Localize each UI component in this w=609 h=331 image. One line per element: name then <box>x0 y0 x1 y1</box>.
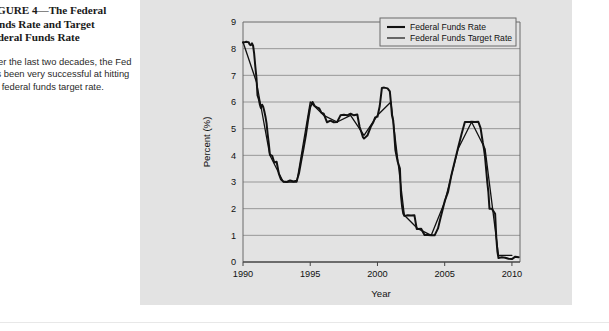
chart-legend: Federal Funds Rate Federal Funds Target … <box>380 18 516 46</box>
plot-background <box>243 22 520 262</box>
x-axis-tick-labels: 19901995200020052010 <box>233 269 522 279</box>
y-tick-label-7: 7 <box>231 71 236 81</box>
y-tick-label-5: 5 <box>231 124 236 134</box>
y-tick-label-1: 1 <box>231 231 236 241</box>
figure-caption-body: Over the last two decades, the Fed has b… <box>0 56 136 94</box>
figure-caption-title: FIGURE 4—The Federal Funds Rate and Targ… <box>0 4 136 45</box>
figure-page: FIGURE 4—The Federal Funds Rate and Targ… <box>0 0 609 331</box>
x-tick-label-2005: 2005 <box>434 269 454 279</box>
y-tick-label-3: 3 <box>231 177 236 187</box>
y-tick-label-6: 6 <box>231 97 236 107</box>
line-chart: 0123456789 19901995200020052010 Percent … <box>140 0 572 305</box>
x-tick-label-1990: 1990 <box>233 269 253 279</box>
y-tick-label-2: 2 <box>231 204 236 214</box>
legend-label-federal-funds-target-rate: Federal Funds Target Rate <box>410 33 512 43</box>
y-axis-title: Percent (%) <box>201 117 212 168</box>
y-tick-label-8: 8 <box>231 44 236 54</box>
x-tick-label-2000: 2000 <box>367 269 387 279</box>
y-axis-tick-labels: 0123456789 <box>231 17 236 267</box>
page-bottom-rule <box>0 322 609 323</box>
y-tick-label-4: 4 <box>231 151 236 161</box>
x-tick-label-1995: 1995 <box>300 269 320 279</box>
legend-label-federal-funds-rate: Federal Funds Rate <box>410 22 486 32</box>
x-axis-title: Year <box>371 288 391 299</box>
y-tick-label-0: 0 <box>231 257 236 267</box>
y-tick-label-9: 9 <box>231 17 236 27</box>
chart-canvas: 0123456789 19901995200020052010 Percent … <box>140 0 572 305</box>
x-tick-label-2010: 2010 <box>502 269 522 279</box>
figure-caption: FIGURE 4—The Federal Funds Rate and Targ… <box>0 4 136 94</box>
